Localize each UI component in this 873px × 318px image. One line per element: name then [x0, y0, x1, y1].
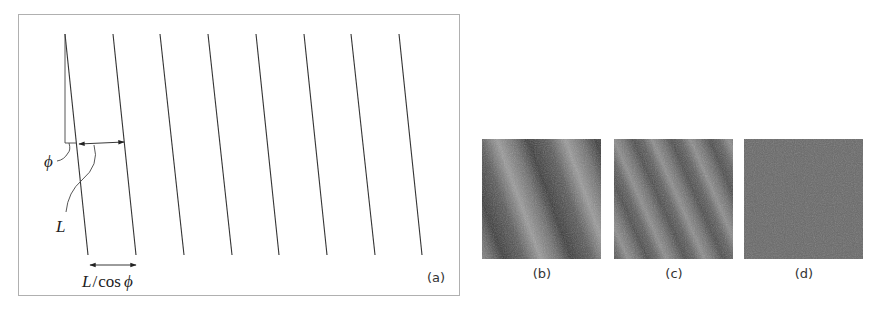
tilted-line [208, 34, 232, 255]
tilted-line [399, 34, 422, 255]
phi-label: ϕ [44, 152, 53, 171]
L-over-cos-phi-label: L/cosϕ [81, 272, 133, 291]
panel-c-caption: (c) [614, 266, 734, 281]
panel-d-image [744, 139, 863, 259]
phi-angle-arc [68, 143, 70, 153]
L-arrow [79, 142, 124, 144]
panel-b-caption: (b) [482, 266, 602, 281]
panel-b-image [482, 139, 601, 259]
L-label: L [55, 217, 65, 236]
tilted-line [113, 34, 136, 255]
panel-d-caption: (d) [744, 266, 864, 281]
tilted-line [256, 34, 279, 255]
panel-c-image [614, 139, 733, 259]
phi-leader [57, 153, 68, 161]
tilted-lines [65, 34, 422, 255]
panel-a-frame [19, 15, 460, 296]
panel-a: ϕ L L/cosϕ (a) [19, 15, 460, 296]
tilted-line [160, 34, 184, 255]
panel-a-label: (a) [427, 270, 445, 285]
tilted-line [304, 34, 327, 255]
L-leader [66, 145, 96, 212]
figure: ϕ L L/cosϕ (a) [0, 0, 873, 318]
tilted-line [65, 34, 88, 255]
tilted-line [351, 34, 375, 255]
